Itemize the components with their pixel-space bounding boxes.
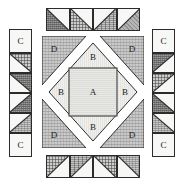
top-strip-unit-1 xyxy=(46,8,70,31)
top-strip-unit-3 xyxy=(93,8,117,31)
top-border-strip xyxy=(46,8,140,31)
bottom-border-strip xyxy=(46,155,140,178)
top-strip-unit-4 xyxy=(117,8,141,31)
right-column-unit-4 xyxy=(152,113,175,133)
right-column-square-c-bottom xyxy=(152,133,175,157)
left-column-unit-3 xyxy=(9,93,32,113)
quilt-block-diagram: C xyxy=(0,0,183,185)
left-border-column: C xyxy=(9,29,32,157)
right-border-column: C xyxy=(152,29,175,157)
right-column-square-c-top xyxy=(152,29,175,53)
right-column-unit-2 xyxy=(152,73,175,93)
top-strip-unit-2 xyxy=(70,8,94,31)
bottom-strip-unit-2 xyxy=(70,155,94,178)
left-column-unit-1 xyxy=(9,53,32,73)
center-square-in-a-square-block: D D D D B B B B A xyxy=(42,36,144,148)
right-column-unit-3 xyxy=(152,93,175,113)
bottom-strip-unit-4 xyxy=(117,155,141,178)
bottom-strip-unit-1 xyxy=(46,155,70,178)
bottom-strip-unit-3 xyxy=(93,155,117,178)
left-column-unit-4 xyxy=(9,113,32,133)
left-column-square-c-top xyxy=(9,29,32,53)
left-column-unit-2 xyxy=(9,73,32,93)
right-column-unit-1 xyxy=(152,53,175,73)
left-column-square-c-bottom xyxy=(9,133,32,157)
center-block-geometry xyxy=(42,36,144,148)
